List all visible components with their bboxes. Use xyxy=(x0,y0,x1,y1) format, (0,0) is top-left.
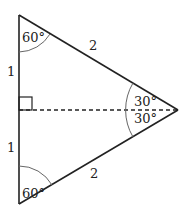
triangle-diagram: 60° 60° 30° 30° 1 1 2 2 xyxy=(0,0,192,217)
right-angle-marker xyxy=(19,97,32,110)
lower-left-side-label: 1 xyxy=(7,140,15,155)
bottom-angle-label: 60° xyxy=(22,186,45,201)
lower-slant-label: 2 xyxy=(90,166,98,181)
top-angle-label: 60° xyxy=(22,30,45,45)
right-lower-angle-label: 30° xyxy=(134,111,157,126)
upper-left-side-label: 1 xyxy=(7,64,15,79)
upper-slant-label: 2 xyxy=(89,38,97,53)
right-upper-angle-label: 30° xyxy=(134,94,157,109)
bottom-angle-arc xyxy=(19,166,52,185)
